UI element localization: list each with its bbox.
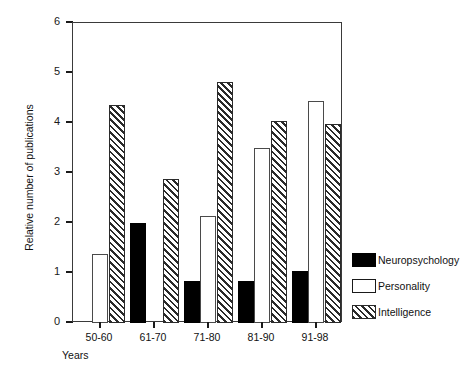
legend-label: Intelligence (378, 305, 431, 319)
y-axis-tick-label: 4 (38, 116, 60, 127)
bar-neuropsychology-91-98 (292, 271, 308, 324)
bar-neuropsychology-61-70 (130, 223, 146, 323)
plot-area (72, 22, 342, 322)
bar-neuropsychology-81-90 (238, 281, 254, 323)
legend-item-neuropsychology: Neuropsychology (352, 251, 474, 277)
legend-swatch-intelligence (352, 305, 376, 319)
bar-personality-71-80 (200, 216, 216, 323)
legend-swatch-personality (352, 279, 376, 293)
y-axis-tick-label: 3 (38, 166, 60, 177)
bar-neuropsychology-71-80 (184, 281, 200, 323)
x-axis-tick-label: 71-80 (177, 331, 237, 343)
legend-label: Personality (378, 279, 430, 293)
x-axis-tick-label: 81-90 (231, 331, 291, 343)
x-axis-tick-label: 50-60 (69, 331, 129, 343)
x-axis-tick (315, 322, 317, 328)
y-axis-tick-label: 2 (38, 216, 60, 227)
x-axis-tick-label: 91-98 (285, 331, 345, 343)
y-axis-tick-label: 0 (38, 316, 60, 327)
y-axis-title: Relative number of publications (24, 63, 35, 293)
legend-item-intelligence: Intelligence (352, 303, 474, 329)
legend-label: Neuropsychology (378, 253, 459, 267)
x-axis-tick (261, 322, 263, 328)
y-axis-tick-label: 1 (38, 266, 60, 277)
x-axis-tick-label: 61-70 (123, 331, 183, 343)
chart-legend: NeuropsychologyPersonalityIntelligence (352, 251, 474, 329)
x-axis-tick (207, 322, 209, 328)
bar-intelligence-50-60 (109, 105, 125, 323)
legend-item-personality: Personality (352, 277, 474, 303)
y-axis-tick-label: 5 (38, 66, 60, 77)
x-axis-tick (153, 322, 155, 328)
bar-personality-91-98 (308, 101, 324, 324)
bar-intelligence-91-98 (325, 124, 341, 323)
x-axis-title: Years (62, 349, 88, 361)
bar-intelligence-81-90 (271, 121, 287, 324)
bar-intelligence-61-70 (163, 179, 179, 323)
bar-intelligence-71-80 (217, 82, 233, 323)
bar-chart-figure: 0123456 Relative number of publications … (0, 0, 474, 386)
y-axis-tick-label: 6 (38, 16, 60, 27)
bar-personality-81-90 (254, 148, 270, 323)
bar-personality-50-60 (92, 254, 108, 323)
legend-swatch-neuropsychology (352, 253, 376, 267)
x-axis-tick (99, 322, 101, 328)
